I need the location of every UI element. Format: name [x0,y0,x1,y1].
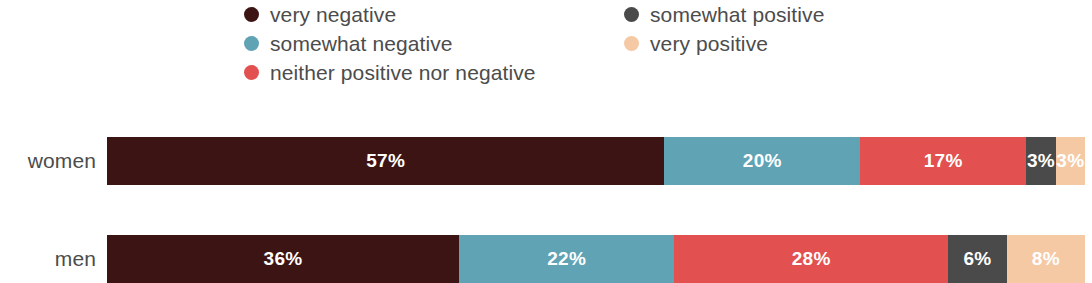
bar-segment-value: 22% [547,248,586,270]
bar-segment: 3% [1026,137,1055,185]
bar-segment: 3% [1056,137,1085,185]
bar-segment-value: 20% [743,150,782,172]
bar-row-women: women 57%20%17%3%3% [0,137,1092,185]
bar-segment-value: 3% [1056,150,1084,172]
stacked-bar-track: 36%22%28%6%8% [107,235,1085,283]
bar-segment: 36% [107,235,459,283]
bar-segment: 8% [1007,235,1085,283]
bar-row-label: men [0,235,96,283]
bar-segment-value: 6% [963,248,991,270]
bar-segment-value: 36% [264,248,303,270]
bar-segment-value: 17% [924,150,963,172]
bar-segment: 57% [107,137,664,185]
bar-segment: 28% [674,235,948,283]
bar-segment-value: 28% [792,248,831,270]
bar-segment: 6% [948,235,1007,283]
bar-segment-value: 8% [1032,248,1060,270]
stacked-bar-track: 57%20%17%3%3% [107,137,1085,185]
bar-segment-value: 3% [1027,150,1055,172]
bar-segment: 20% [664,137,860,185]
bar-segment: 17% [860,137,1026,185]
bar-row-men: men 36%22%28%6%8% [0,235,1092,283]
bar-segment-value: 57% [366,150,405,172]
bar-row-label: women [0,137,96,185]
bar-segment: 22% [459,235,674,283]
